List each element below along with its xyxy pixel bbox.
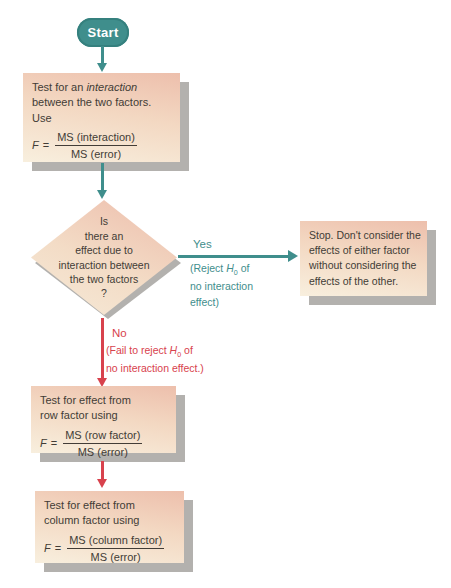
- formula-fraction: MS (row factor) MS (error): [63, 428, 142, 460]
- arrow-down-icon: [97, 63, 107, 72]
- interaction-test-box: Test for an interactionbetween the two f…: [23, 73, 180, 162]
- formula-denominator: MS (error): [71, 146, 121, 161]
- arrow-down-icon: [97, 479, 107, 488]
- flowchart-two-way-anova: Start Test for an interactionbetween the…: [0, 0, 451, 588]
- row-factor-test-box: Test for effect fromrow factor using F= …: [31, 386, 176, 453]
- column-f-formula: F= MS (column factor) MS (error): [44, 533, 175, 565]
- formula-lhs: F: [40, 436, 47, 451]
- formula-numerator: MS (row factor): [63, 428, 142, 444]
- no-label: No: [112, 327, 127, 339]
- row-factor-text: Test for effect fromrow factor using: [40, 393, 167, 424]
- row-f-formula: F= MS (row factor) MS (error): [40, 428, 167, 460]
- formula-fraction: MS (column factor) MS (error): [67, 533, 164, 565]
- column-factor-test-box: Test for effect fromcolumn factor using …: [35, 491, 184, 563]
- interaction-f-formula: F= MS (interaction) MS (error): [32, 130, 171, 162]
- formula-equals: =: [43, 138, 49, 153]
- arrow-line-yes: [178, 255, 289, 258]
- formula-denominator: MS (error): [91, 549, 141, 564]
- yes-label: Yes: [193, 238, 212, 250]
- stop-box: Stop. Don't consider theeffects of eithe…: [300, 221, 427, 296]
- column-factor-text: Test for effect fromcolumn factor using: [44, 498, 175, 529]
- formula-fraction: MS (interaction) MS (error): [55, 130, 137, 162]
- formula-denominator: MS (error): [78, 444, 128, 459]
- formula-equals: =: [51, 436, 57, 451]
- arrow-right-icon: [288, 250, 298, 262]
- decision-question-text: Isthere aneffect due tointeraction betwe…: [58, 214, 149, 301]
- yes-caption: (Reject H0 ofno interactioneffect): [190, 261, 253, 310]
- start-label: Start: [87, 25, 118, 40]
- arrow-line-no: [101, 318, 104, 379]
- formula-numerator: MS (column factor): [67, 533, 164, 549]
- formula-numerator: MS (interaction): [55, 130, 137, 146]
- formula-lhs: F: [44, 541, 51, 556]
- interaction-decision-diamond: Isthere aneffect due tointeraction betwe…: [31, 200, 177, 315]
- stop-text: Stop. Don't consider theeffects of eithe…: [309, 228, 418, 289]
- arrow-down-icon: [97, 190, 107, 199]
- formula-equals: =: [55, 541, 61, 556]
- formula-lhs: F: [32, 138, 39, 153]
- interaction-test-text: Test for an interactionbetween the two f…: [32, 80, 171, 126]
- no-caption: (Fail to reject H0 ofno interaction effe…: [106, 343, 204, 377]
- arrow-line-box1-to-diamond: [101, 163, 104, 191]
- arrow-line-row-to-column: [101, 461, 104, 480]
- start-terminal: Start: [77, 18, 129, 47]
